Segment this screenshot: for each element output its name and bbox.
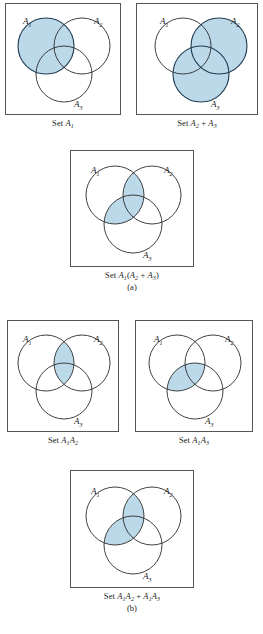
circle-label-a2: A2	[163, 165, 173, 177]
venn-box-set-a1a3: A1 A2 A3	[135, 320, 253, 432]
circle-label-a3: A3	[142, 571, 152, 583]
venn-box-set-a1: A1 A2 A3	[5, 3, 121, 115]
circle-label-a2: A2	[93, 334, 103, 346]
caption-set-a1a2-plus-a1a3: Set A1A2 + A1A3	[70, 591, 194, 601]
venn-svg-set-a1a2: A1 A2 A3	[8, 321, 118, 431]
circle-label-a1: A1	[22, 16, 32, 28]
caption-set-a1: Set A1	[5, 118, 121, 128]
circle-label-a1: A1	[90, 165, 100, 177]
caption-set-a1a3: Set A1A3	[135, 435, 253, 445]
panel-set-a1a2-plus-a1a3: A1 A2 A3 Set A1A2 + A1A3 (b)	[70, 470, 194, 613]
venn-box-set-a1a2: A1 A2 A3	[7, 320, 119, 432]
venn-svg-set-a1a2-plus-a1a3: A1 A2 A3	[71, 471, 193, 587]
venn-svg-set-a2-plus-a3: A1 A2 A3	[137, 4, 257, 114]
circle-label-a3: A3	[210, 99, 220, 111]
panel-set-a1-times-a2-plus-a3: A1 A2 A3 Set A1(A2 + A3) (a)	[70, 150, 194, 292]
caption-set-a1-times-a2-plus-a3: Set A1(A2 + A3)	[70, 270, 194, 280]
circle-label-a3: A3	[73, 99, 83, 111]
venn-box-set-a1a2-plus-a1a3: A1 A2 A3	[70, 470, 194, 588]
circle-label-a1: A1	[159, 16, 169, 28]
caption-set-a1a2: Set A1A2	[7, 435, 119, 445]
circle-label-a3: A3	[73, 416, 83, 428]
venn-svg-set-a1a3: A1 A2 A3	[136, 321, 252, 431]
circle-label-a1: A1	[22, 334, 32, 346]
venn-box-set-a2-plus-a3: A1 A2 A3	[136, 3, 258, 115]
venn-box-set-a1-times-a2-plus-a3: A1 A2 A3	[70, 150, 194, 267]
circle-label-a1: A1	[90, 486, 100, 498]
circle-label-a2: A2	[163, 486, 173, 498]
circle-label-a3: A3	[142, 250, 152, 262]
subfigure-label-a: (a)	[70, 282, 194, 292]
circle-label-a2: A2	[93, 16, 103, 28]
venn-svg-set-a1: A1 A2 A3	[6, 4, 120, 114]
panel-set-a2-plus-a3: A1 A2 A3 Set A2 + A3	[136, 3, 258, 128]
panel-set-a1a2: A1 A2 A3 Set A1A2	[7, 320, 119, 445]
caption-set-a2-plus-a3: Set A2 + A3	[136, 118, 258, 128]
circle-label-a2: A2	[230, 16, 240, 28]
panel-set-a1a3: A1 A2 A3 Set A1A3	[135, 320, 253, 445]
panel-set-a1: A1 A2 A3 Set A1	[5, 3, 121, 128]
circle-label-a1: A1	[153, 334, 163, 346]
circle-label-a3: A3	[204, 416, 214, 428]
circle-label-a2: A2	[224, 334, 234, 346]
venn-svg-set-a1-times-a2-plus-a3: A1 A2 A3	[71, 151, 193, 266]
subfigure-label-b: (b)	[70, 603, 194, 613]
